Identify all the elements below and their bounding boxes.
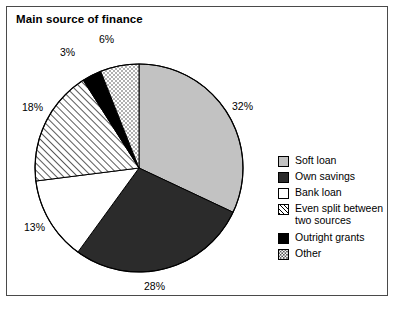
- legend-swatch-own-savings: [278, 172, 289, 183]
- legend-label-even-split: Even split between two sources: [295, 203, 383, 226]
- legend-swatch-bank-loan: [278, 188, 289, 199]
- legend-label-own-savings: Own savings: [295, 171, 355, 183]
- legend-item-bank-loan: Bank loan: [278, 187, 388, 200]
- legend-item-other: Other: [278, 248, 388, 261]
- legend-item-even-split: Even split between two sources: [278, 203, 388, 226]
- legend-item-own-savings: Own savings: [278, 171, 388, 184]
- legend-item-outright-grants: Outright grants: [278, 232, 388, 245]
- legend-label-outright-grants: Outright grants: [295, 232, 364, 244]
- legend-label-soft-loan: Soft loan: [295, 155, 336, 167]
- legend-item-soft-loan: Soft loan: [278, 155, 388, 168]
- legend-swatch-other: [278, 249, 289, 260]
- legend: Soft loan Own savings Bank loan Even spl…: [278, 155, 388, 264]
- legend-swatch-soft-loan: [278, 156, 289, 167]
- slice-label-even-split: 18%: [22, 102, 43, 113]
- legend-label-other: Other: [295, 248, 321, 260]
- slice-label-outright-grants: 3%: [60, 47, 75, 58]
- slice-label-soft-loan: 32%: [232, 101, 253, 112]
- slice-label-bank-loan: 13%: [24, 222, 45, 233]
- chart-figure: Main source of finance: [0, 0, 396, 310]
- legend-label-bank-loan: Bank loan: [295, 187, 342, 199]
- legend-swatch-even-split: [278, 204, 289, 215]
- pie-slices: [35, 64, 243, 272]
- slice-label-other: 6%: [99, 34, 114, 45]
- legend-swatch-outright-grants: [278, 233, 289, 244]
- slice-label-own-savings: 28%: [144, 281, 165, 292]
